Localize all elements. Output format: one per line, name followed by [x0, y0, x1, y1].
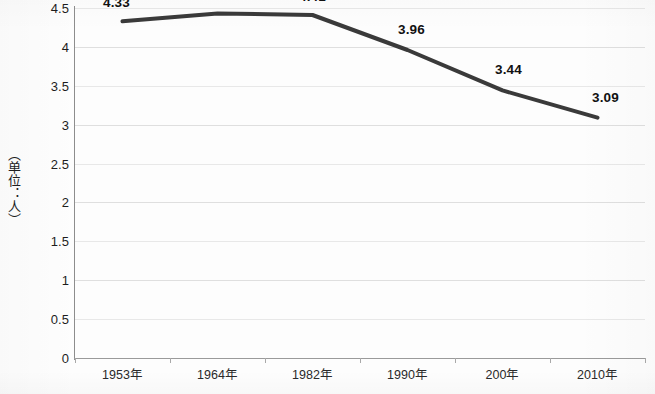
- data-point-label: 4.43: [204, 0, 231, 2]
- line-chart: 00.511.522.533.544.5 1953年1964年1982年1990…: [0, 0, 655, 394]
- data-series: [0, 0, 655, 394]
- data-point-label: 3.09: [592, 90, 619, 105]
- series-line: [123, 13, 598, 117]
- data-point-label: 3.44: [495, 62, 522, 77]
- data-point-label: 4.41: [299, 0, 326, 4]
- data-point-label: 3.96: [398, 22, 425, 37]
- data-point-label: 4.33: [103, 0, 130, 10]
